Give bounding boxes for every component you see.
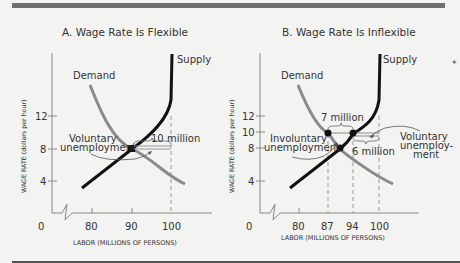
involuntary-label-line2: unemployment bbox=[264, 142, 340, 153]
y-axis-label: WAGE RATE (dollars per hour) bbox=[20, 99, 28, 193]
y-tick-12: 12 bbox=[35, 111, 48, 122]
y-tick-10: 10 bbox=[242, 127, 255, 138]
x-tick-100: 100 bbox=[370, 221, 389, 232]
x-axis-break bbox=[260, 204, 419, 220]
y-tick-4: 4 bbox=[248, 176, 254, 187]
panel-b: B. Wage Rate Is Inflexible 12 10 8 4 0 8… bbox=[228, 26, 454, 242]
supply-label: Supply bbox=[383, 54, 417, 65]
gap7-label: 7 million bbox=[321, 112, 364, 123]
origin-label: 0 bbox=[246, 221, 252, 232]
side-mark: * bbox=[452, 59, 457, 69]
x-axis-label: LABOR (MILLIONS OF PERSONS) bbox=[281, 234, 385, 242]
voluntary-label-line2: unemployment bbox=[60, 142, 136, 153]
gap6-label: 6 million bbox=[352, 146, 395, 157]
supply-at-floor-point bbox=[350, 130, 357, 137]
x-axis-label: LABOR (MILLIONS OF PERSONS) bbox=[73, 239, 177, 247]
y-tick-8: 8 bbox=[248, 143, 254, 154]
supply-label: Supply bbox=[177, 54, 211, 65]
x-tick-87: 87 bbox=[321, 221, 334, 232]
panel-a: A. Wage Rate Is Flexible 12 8 4 0 80 90 … bbox=[20, 26, 212, 247]
y-tick-8: 8 bbox=[40, 144, 46, 155]
panel-a-title: A. Wage Rate Is Flexible bbox=[62, 26, 188, 38]
x-tick-90: 90 bbox=[125, 221, 138, 232]
brace-6-million bbox=[353, 138, 379, 144]
x-tick-94: 94 bbox=[346, 221, 359, 232]
gap-label: 10 million bbox=[151, 133, 200, 144]
origin-label: 0 bbox=[38, 221, 44, 232]
panel-b-title: B. Wage Rate Is Inflexible bbox=[282, 26, 416, 38]
demand-label: Demand bbox=[73, 70, 115, 81]
demand-label: Demand bbox=[281, 70, 323, 81]
x-tick-100: 100 bbox=[162, 221, 181, 232]
voluntary-label-line3: ment bbox=[413, 149, 439, 160]
y-tick-4: 4 bbox=[40, 176, 46, 187]
y-tick-12: 12 bbox=[242, 111, 255, 122]
x-tick-80: 80 bbox=[85, 221, 98, 232]
chart-canvas: A. Wage Rate Is Flexible 12 8 4 0 80 90 … bbox=[0, 0, 460, 263]
x-tick-80: 80 bbox=[292, 221, 305, 232]
brace-7-million bbox=[328, 123, 353, 129]
y-axis-label: WAGE RATE (dollars per hour) bbox=[228, 99, 236, 193]
